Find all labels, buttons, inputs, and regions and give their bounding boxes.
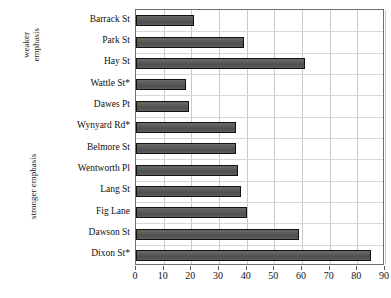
row-separator (136, 245, 383, 246)
gridline (302, 10, 303, 264)
bar (136, 122, 236, 133)
x-tick-label: 10 (158, 271, 168, 281)
bar (136, 101, 189, 112)
plot-area (135, 9, 384, 265)
gridline (164, 10, 165, 264)
x-tick-label: 30 (213, 271, 223, 281)
bar-chart: weaker emphasis stronger emphasis Barrac… (0, 0, 391, 298)
category-label: Park St (102, 36, 130, 46)
x-tick-label: 20 (185, 271, 195, 281)
category-axis-labels: Barrack StPark StHay StWattle St*Dawes P… (46, 9, 132, 265)
group-label-stronger-emphasis: stronger emphasis (27, 100, 41, 272)
bar (136, 207, 247, 218)
row-separator (136, 159, 383, 160)
row-separator (136, 31, 383, 32)
gridline (357, 10, 358, 264)
category-label: Dawes Pt (94, 100, 130, 110)
group-label-weaker-line2: emphasis (32, 28, 41, 62)
category-label: Wynyard Rd* (77, 121, 130, 131)
gridline (191, 10, 192, 264)
category-label: Wentworth Pl (78, 164, 130, 174)
x-tick-label: 50 (268, 271, 278, 281)
bar (136, 58, 305, 69)
row-separator (136, 202, 383, 203)
bar (136, 37, 244, 48)
x-tick-label: 90 (379, 271, 389, 281)
row-separator (136, 95, 383, 96)
gridline (385, 10, 386, 264)
bar (136, 229, 299, 240)
gridline (219, 10, 220, 264)
x-tick-label: 40 (241, 271, 251, 281)
category-label: Fig Lane (96, 207, 130, 217)
row-separator (136, 181, 383, 182)
category-label: Barrack St (90, 15, 130, 25)
gridline (247, 10, 248, 264)
row-separator (136, 74, 383, 75)
gridline (274, 10, 275, 264)
gridline (330, 10, 331, 264)
group-label-weaker-line1: weaker (22, 32, 31, 58)
bar (136, 79, 186, 90)
group-label-stronger-text: stronger emphasis (29, 153, 38, 218)
row-separator (136, 138, 383, 139)
category-label: Hay St (104, 57, 130, 67)
row-separator (136, 117, 383, 118)
x-axis: 0102030405060708090 (135, 266, 384, 288)
x-tick-label: 60 (296, 271, 306, 281)
category-label: Wattle St* (90, 79, 130, 89)
bar (136, 186, 241, 197)
bar (136, 143, 236, 154)
row-separator (136, 223, 383, 224)
x-tick-label: 0 (133, 271, 138, 281)
group-label-weaker-emphasis: weaker emphasis (16, 12, 46, 78)
category-label: Lang St (100, 185, 130, 195)
bar (136, 165, 238, 176)
bar (136, 15, 194, 26)
row-separator (136, 53, 383, 54)
bar (136, 250, 371, 261)
category-label: Belmore St (87, 143, 130, 153)
category-label: Dixon St* (91, 249, 130, 259)
category-label: Dawson St (89, 228, 130, 238)
x-tick-label: 70 (324, 271, 334, 281)
x-tick-label: 80 (351, 271, 361, 281)
